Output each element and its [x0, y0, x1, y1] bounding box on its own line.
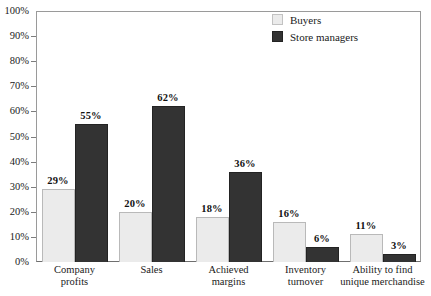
grouped-bar-chart: 100%90%80%70%60%50%40%30%20%10%0% 29%55%…: [0, 0, 431, 296]
legend-label: Store managers: [290, 31, 358, 43]
bar-pair: 20%62%: [119, 11, 185, 262]
bar-store-managers[interactable]: 55%: [75, 124, 108, 262]
x-axis-category-line: margins: [208, 276, 248, 288]
bar-buyers[interactable]: 20%: [119, 212, 152, 262]
bar-pair: 18%36%: [196, 11, 262, 262]
bar-value-label: 18%: [201, 203, 223, 214]
y-axis-tick-label: 80%: [10, 56, 29, 66]
x-axis-category-line: profits: [54, 276, 95, 288]
bar-value-label: 16%: [278, 208, 300, 219]
chart-legend: BuyersStore managers: [272, 12, 402, 46]
bar-value-label: 11%: [355, 220, 376, 231]
x-axis-category-line: unique merchandise: [340, 276, 424, 288]
bar-value-label: 36%: [234, 158, 256, 169]
legend-item[interactable]: Store managers: [272, 29, 402, 44]
bar-buyers[interactable]: 18%: [196, 217, 229, 262]
bar-group: 16%6%: [267, 11, 344, 262]
y-axis-tick-label: 0%: [15, 257, 29, 267]
y-axis-tick-label: 30%: [10, 182, 29, 192]
x-axis-category-line: Achieved: [208, 264, 248, 276]
bar-group: 11%3%: [344, 11, 421, 262]
y-axis-tick-label: 50%: [10, 132, 29, 142]
legend-swatch-icon: [272, 31, 283, 42]
x-axis-category-line: Ability to find: [340, 264, 424, 276]
y-axis-tick-label: 20%: [10, 207, 29, 217]
x-axis-category-label: Achievedmargins: [208, 264, 248, 288]
bar-value-label: 55%: [80, 110, 102, 121]
x-axis-category-line: Sales: [140, 264, 162, 276]
bar-pair: 16%6%: [273, 11, 339, 262]
bar-value-label: 29%: [47, 175, 69, 186]
y-axis-tick-label: 60%: [10, 106, 29, 116]
y-axis-tick-label: 90%: [10, 31, 29, 41]
bar-group: 29%55%: [36, 11, 113, 262]
bar-buyers[interactable]: 16%: [273, 222, 306, 262]
legend-label: Buyers: [290, 14, 321, 26]
bar-store-managers[interactable]: 3%: [383, 254, 416, 262]
plot-area: 29%55%20%62%18%36%16%6%11%3%: [36, 11, 421, 262]
bar-value-label: 20%: [124, 198, 146, 209]
x-axis-category-label: Ability to findunique merchandise: [340, 264, 424, 288]
bar-value-label: 6%: [314, 233, 330, 244]
x-axis-category-line: turnover: [285, 276, 326, 288]
bar-store-managers[interactable]: 6%: [306, 247, 339, 262]
y-axis-tick-label: 70%: [10, 81, 29, 91]
x-axis-category-label: Sales: [140, 264, 162, 276]
x-axis-category-line: Inventory: [285, 264, 326, 276]
legend-item[interactable]: Buyers: [272, 12, 402, 27]
bar-pair: 11%3%: [350, 11, 416, 262]
x-axis: CompanyprofitsSalesAchievedmarginsInvent…: [36, 264, 421, 296]
y-axis-tick-label: 10%: [10, 232, 29, 242]
x-axis-category-label: Inventoryturnover: [285, 264, 326, 288]
y-axis-tick-label: 40%: [10, 157, 29, 167]
y-axis-tick-label: 100%: [5, 6, 30, 16]
x-axis-category-line: Company: [54, 264, 95, 276]
y-axis: 100%90%80%70%60%50%40%30%20%10%0%: [0, 0, 36, 296]
bar-store-managers[interactable]: 36%: [229, 172, 262, 262]
bar-buyers[interactable]: 29%: [42, 189, 75, 262]
legend-swatch-icon: [272, 14, 283, 25]
bar-store-managers[interactable]: 62%: [152, 106, 185, 262]
bar-buyers[interactable]: 11%: [350, 234, 383, 262]
bar-value-label: 3%: [391, 240, 407, 251]
x-axis-category-label: Companyprofits: [54, 264, 95, 288]
bar-pair: 29%55%: [42, 11, 108, 262]
bar-group: 20%62%: [113, 11, 190, 262]
bar-value-label: 62%: [157, 92, 179, 103]
bar-group: 18%36%: [190, 11, 267, 262]
